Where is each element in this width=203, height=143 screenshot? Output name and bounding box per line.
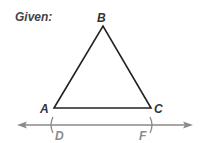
label-d: D <box>55 129 64 143</box>
label-b: B <box>97 11 106 25</box>
label-c: C <box>154 102 163 116</box>
geometry-diagram: B A C D F <box>0 0 203 143</box>
triangle-abc <box>54 26 151 108</box>
label-a: A <box>39 102 49 116</box>
label-f: F <box>139 129 147 143</box>
